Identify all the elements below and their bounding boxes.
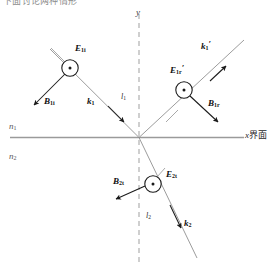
- figure-canvas: [0, 0, 275, 273]
- reflected-k-label: k1′: [201, 40, 211, 51]
- reflected-B-subscript: 1r: [214, 102, 220, 108]
- reflected-k-prime: ′: [209, 39, 212, 49]
- x-axis-interface-label: x界面: [245, 131, 267, 140]
- reflected-E-out-of-page-dot: [183, 89, 186, 92]
- transmitted-k-subscript: 2: [189, 222, 192, 228]
- reflected-E-prime: ′: [182, 63, 185, 73]
- reflected-k-arrow: [210, 66, 226, 81]
- incident-B-tail-line: [51, 48, 64, 61]
- transmitted-B-tail-line: [157, 168, 165, 177]
- incident-k-subscript: 1: [92, 100, 95, 106]
- transmitted-E-out-of-page-dot: [152, 183, 155, 186]
- interface-label-cn: 界面: [249, 130, 267, 140]
- reflected-E-label: E1r′: [170, 64, 184, 75]
- transmitted-ray-line: [139, 138, 197, 259]
- medium-upper-subscript: 1: [14, 125, 17, 131]
- transmitted-E-subscript: 2t: [172, 173, 177, 179]
- incident-E-label: E1i: [75, 44, 86, 53]
- incident-k-arrow: [108, 106, 124, 122]
- transmitted-k-label: k2: [184, 219, 192, 228]
- incident-k-label: k1: [87, 97, 95, 106]
- medium-lower-subscript: 2: [14, 155, 17, 161]
- incident-ray-subscript: 1: [123, 95, 126, 101]
- incident-ray-label: l1: [121, 93, 126, 102]
- reflected-B-label: B1r: [208, 99, 220, 108]
- reflected-B-tail-line: [166, 110, 178, 122]
- incident-B-label: B1i: [44, 97, 55, 106]
- incident-E-subscript: 1i: [81, 47, 86, 53]
- incident-B-subscript: 1i: [50, 100, 55, 106]
- transmitted-E-label: E2t: [166, 170, 177, 179]
- transmitted-B-subscript: 2t: [119, 180, 124, 186]
- transmitted-ray-label: l2: [146, 212, 151, 221]
- optics-reflection-refraction-figure: 下面讨论两种情形: [0, 0, 275, 273]
- medium-lower-label: n2: [9, 152, 17, 161]
- transmitted-B-label: B2t: [113, 177, 124, 186]
- incident-E-out-of-page-dot: [69, 67, 72, 70]
- medium-upper-label: n1: [9, 122, 17, 131]
- transmitted-k-arrow: [170, 205, 181, 228]
- transmitted-B-arrow: [116, 186, 145, 199]
- y-axis-label: y: [136, 8, 140, 17]
- transmitted-ray-subscript: 2: [148, 214, 151, 220]
